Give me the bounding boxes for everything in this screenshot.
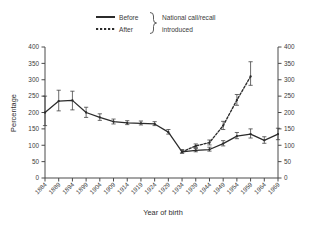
data-point-after <box>181 151 183 153</box>
data-point-after <box>249 75 251 77</box>
legend-note-line1: National call/recall <box>162 14 216 21</box>
y-tick-label-right: 300 <box>284 76 295 83</box>
x-tick-label: 1914 <box>115 180 130 195</box>
y-tick-label-right: 150 <box>284 125 295 132</box>
x-tick-label: 1939 <box>184 180 199 195</box>
data-point-before <box>58 100 60 102</box>
y-tick-label-right: 100 <box>284 142 295 149</box>
y-tick-label-right: 200 <box>284 109 295 116</box>
y-tick-label-right: 350 <box>284 60 295 67</box>
y-tick-label-left: 50 <box>32 158 40 165</box>
data-point-before <box>126 122 128 124</box>
x-tick-label: 1934 <box>170 180 185 195</box>
x-tick-label: 1954 <box>225 180 240 195</box>
data-point-after <box>236 99 238 101</box>
data-point-before <box>71 99 73 101</box>
x-tick-label: 1949 <box>211 180 226 195</box>
data-point-before <box>167 131 169 133</box>
data-point-before <box>222 142 224 144</box>
x-tick-label: 1884 <box>33 180 48 195</box>
x-tick-label: 1904 <box>88 180 103 195</box>
error-bar <box>248 62 252 86</box>
y-tick-label-left: 350 <box>28 60 39 67</box>
y-tick-label-right: 400 <box>284 43 295 50</box>
y-tick-label-left: 0 <box>35 174 39 181</box>
legend-after-label: After <box>119 26 134 33</box>
series-line-after <box>182 76 251 151</box>
line-chart: Before After National call/recall introd… <box>0 0 321 233</box>
data-point-before <box>195 149 197 151</box>
y-tick-label-right: 50 <box>284 158 292 165</box>
x-tick-label: 1959 <box>239 180 254 195</box>
x-tick-label: 1944 <box>198 180 213 195</box>
y-tick-label-right: 0 <box>284 174 288 181</box>
x-tick-label: 1964 <box>253 180 268 195</box>
data-point-after <box>208 141 210 143</box>
x-tick-label: 1919 <box>129 180 144 195</box>
x-tick-label: 1889 <box>47 180 62 195</box>
data-point-before <box>249 133 251 135</box>
data-point-before <box>277 133 279 135</box>
legend-note-line2: introduced <box>162 26 193 33</box>
y-axis-right: 050100150200250300350400 <box>278 43 295 181</box>
data-point-after <box>222 124 224 126</box>
x-tick-label: 1894 <box>61 180 76 195</box>
plot-area <box>43 62 280 153</box>
y-axis-title: Percentage <box>9 94 18 132</box>
x-tick-label: 1909 <box>102 180 117 195</box>
legend-brace <box>150 13 157 34</box>
x-axis: 1884188918941899190419091914191919241929… <box>33 178 281 195</box>
x-tick-label: 1969 <box>266 180 281 195</box>
data-point-before <box>236 135 238 137</box>
y-tick-label-left: 300 <box>28 76 39 83</box>
y-tick-label-left: 150 <box>28 125 39 132</box>
series-line-before <box>45 100 278 151</box>
legend-before-label: Before <box>119 14 139 21</box>
y-tick-label-left: 100 <box>28 142 39 149</box>
data-point-before <box>85 111 87 113</box>
y-tick-label-right: 250 <box>284 92 295 99</box>
y-axis-left: 050100150200250300350400 <box>28 43 45 181</box>
chart-legend: Before After National call/recall introd… <box>96 13 216 34</box>
data-point-before <box>140 122 142 124</box>
data-point-before <box>112 121 114 123</box>
data-point-before <box>99 116 101 118</box>
x-tick-label: 1924 <box>143 180 158 195</box>
data-point-before <box>263 139 265 141</box>
y-tick-label-left: 400 <box>28 43 39 50</box>
y-tick-label-left: 200 <box>28 109 39 116</box>
y-tick-label-left: 250 <box>28 92 39 99</box>
data-point-before <box>153 123 155 125</box>
x-tick-label: 1899 <box>74 180 89 195</box>
data-point-before <box>44 111 46 113</box>
chart-figure: Before After National call/recall introd… <box>0 0 321 233</box>
data-point-before <box>208 148 210 150</box>
x-tick-label: 1929 <box>157 180 172 195</box>
x-axis-title: Year of birth <box>143 208 183 217</box>
data-point-after <box>195 145 197 147</box>
